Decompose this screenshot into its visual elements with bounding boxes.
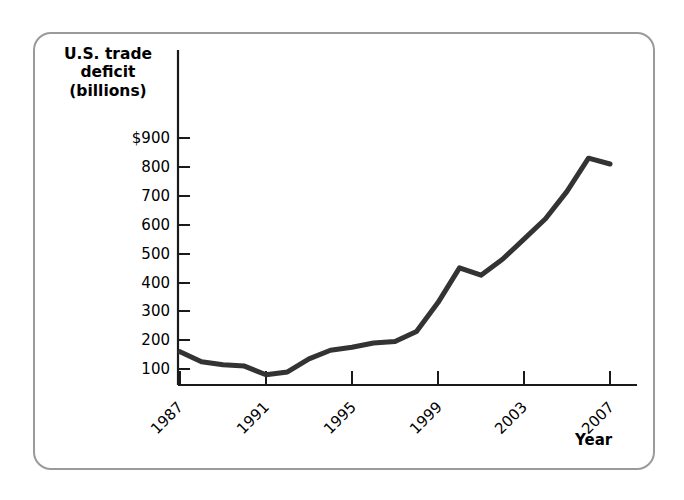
chart-screenshot: U.S. trade deficit (billions) $900 800 7… — [0, 0, 684, 500]
y-axis-ticks — [178, 138, 190, 369]
line-chart-plot — [0, 0, 684, 500]
x-axis-ticks — [180, 371, 610, 385]
trade-deficit-line — [180, 158, 610, 375]
